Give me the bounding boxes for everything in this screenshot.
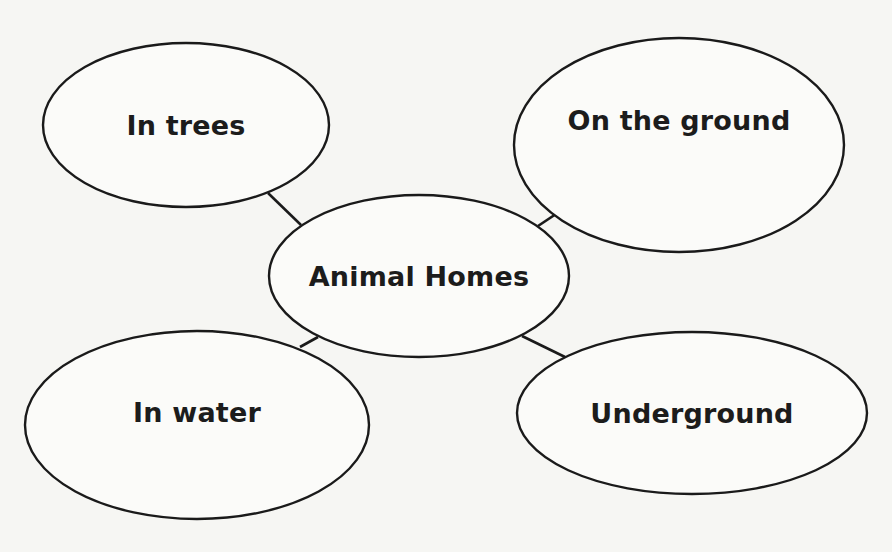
node-on-the-ground-ellipse [514,38,844,252]
node-in-trees-label: In trees [126,110,245,141]
connector-in-trees [268,193,301,225]
concept-web-diagram: Animal Homes In trees On the ground In w… [0,0,892,552]
node-on-the-ground-label: On the ground [568,105,791,136]
node-in-water-label: In water [133,397,261,428]
center-node-label: Animal Homes [309,261,529,292]
connector-underground [522,336,565,357]
connector-in-water [300,337,318,347]
node-underground-label: Underground [590,398,793,429]
